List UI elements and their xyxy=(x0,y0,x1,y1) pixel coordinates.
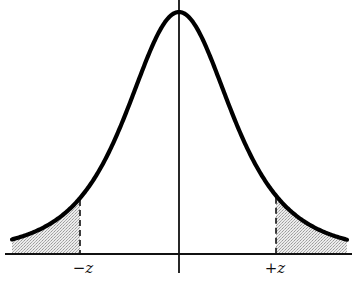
neg-z-label: −z xyxy=(73,259,94,277)
bell-curve-diagram: −z +z xyxy=(0,0,359,299)
pos-z-label: +z xyxy=(265,259,286,277)
